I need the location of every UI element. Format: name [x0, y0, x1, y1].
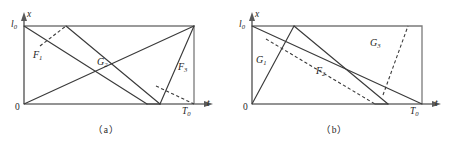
panel-a-y-axis-label: x: [27, 10, 31, 20]
panel-a-line-topleft-to-bottom: [24, 26, 147, 104]
panel-a-region-label-F1: F1: [33, 50, 42, 60]
panel-b-line-origin-to-top: [252, 26, 294, 104]
panel-b-origin-label: 0: [243, 103, 248, 113]
panel-a-region-label-F3: F3: [178, 62, 187, 72]
panel-a-band-upper-line: [66, 26, 160, 104]
panel-b-caption: （b）: [321, 122, 348, 136]
panel-b-line-topleft-to-bottomright: [252, 26, 422, 104]
panel-a-x-axis-label: t: [207, 99, 210, 109]
diagram-panel-b: l0 x 0 t T0 G1 F2 G3 （b）: [228, 0, 456, 146]
panel-a-line-f3-boundary: [160, 26, 194, 104]
panel-a-y-top-label: l0: [11, 20, 17, 30]
panel-a-region-label-G2: G2: [97, 57, 108, 67]
panel-b-region-label-G1: G1: [256, 55, 267, 65]
panel-b-x-end-label: T0: [410, 107, 419, 117]
panel-b-x-axis-label: t: [435, 99, 438, 109]
panel-b-region-label-G3: G3: [370, 38, 381, 48]
panel-b-dashed-g3-boundary: [383, 26, 408, 95]
panel-a-x-end-label: T0: [182, 107, 191, 117]
figure-root: l0 x 0 t T0 F1 G2 F3 （a）: [0, 0, 456, 146]
diagram-panel-a: l0 x 0 t T0 F1 G2 F3 （a）: [0, 0, 228, 146]
panel-b-y-top-label: l0: [239, 20, 245, 30]
panel-a-dashed-upper: [40, 26, 66, 46]
panel-b-y-axis-label: x: [255, 10, 259, 20]
panel-a-origin-label: 0: [15, 103, 20, 113]
panel-b-region-label-F2: F2: [316, 66, 325, 76]
panel-a-caption: （a）: [93, 122, 120, 136]
